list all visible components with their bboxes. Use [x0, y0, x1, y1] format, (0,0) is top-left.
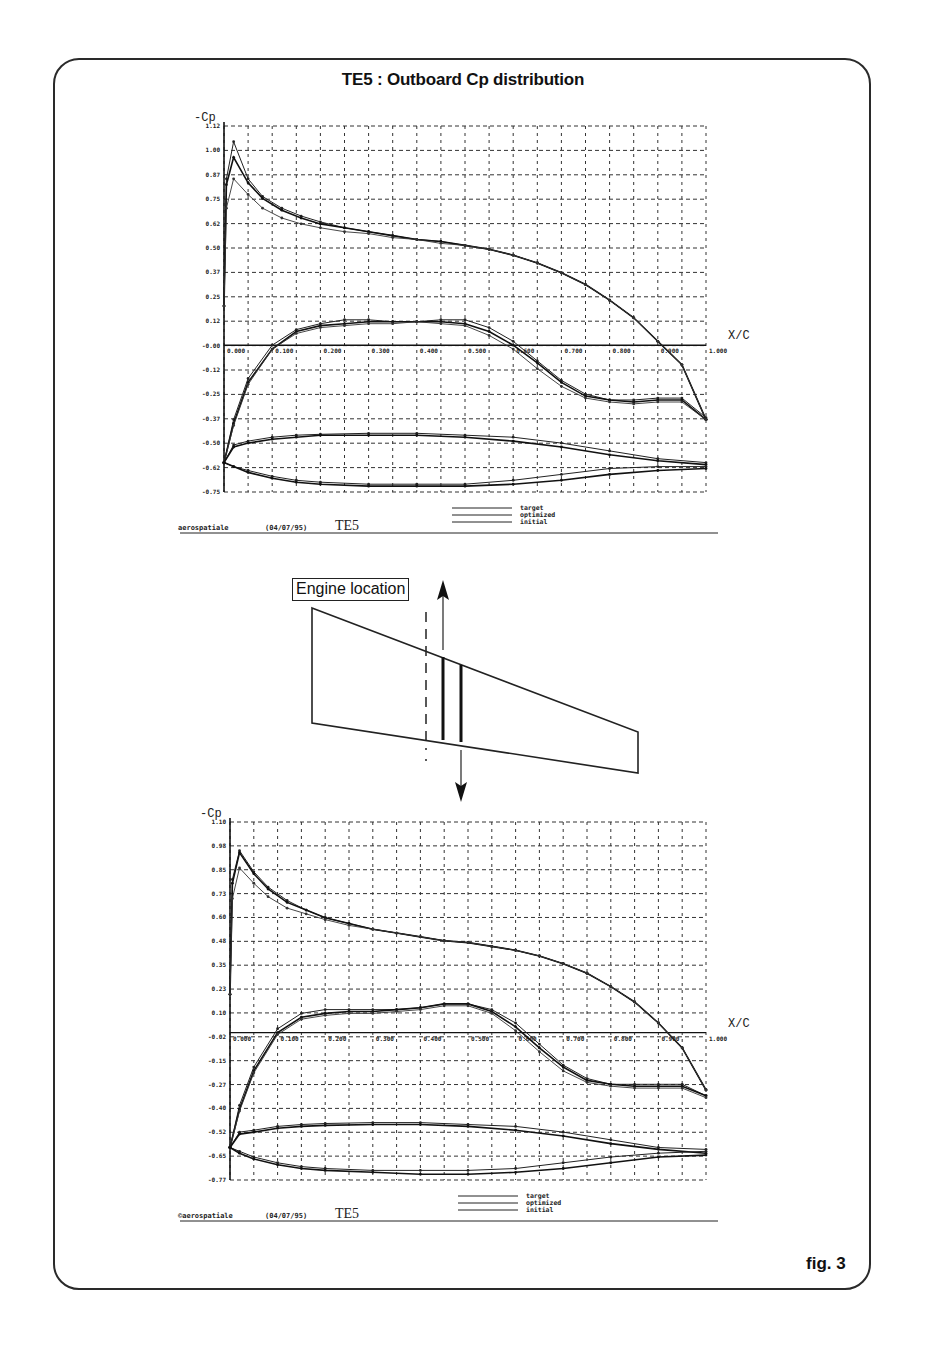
wing-outline: [312, 608, 638, 773]
engine-location-label: Engine location: [292, 578, 409, 601]
figure-label: fig. 3: [806, 1254, 846, 1274]
wing-planform-diagram: [0, 0, 926, 1345]
